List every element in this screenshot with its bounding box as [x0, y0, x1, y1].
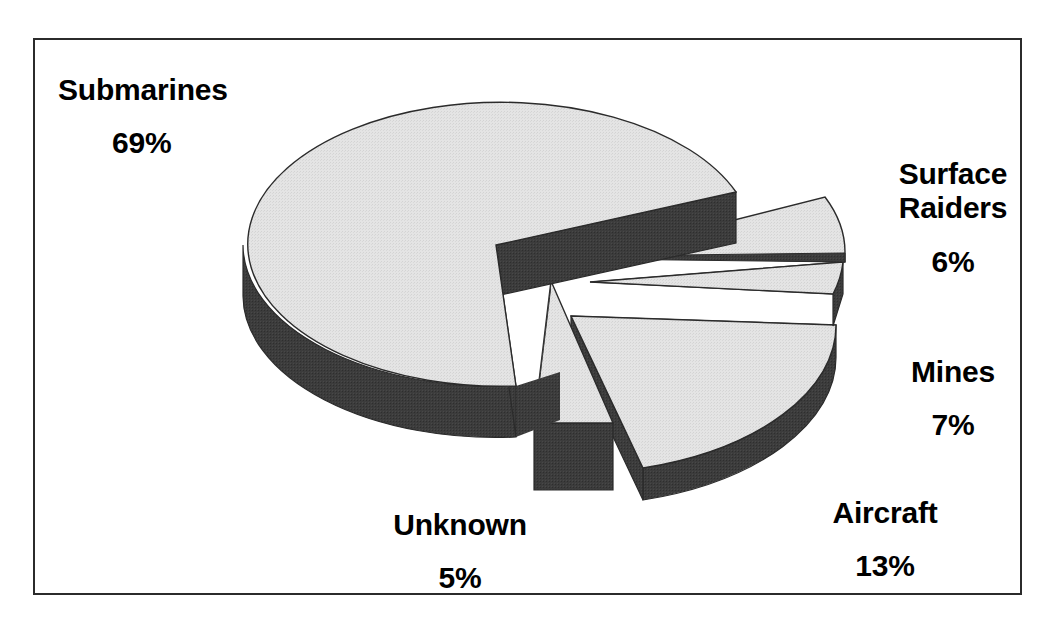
pie-label-unknown-value: 5% — [345, 561, 575, 596]
pie-label-surface-raiders-name: Surface Raiders — [858, 157, 1048, 227]
pie-label-unknown: Unknown 5% — [345, 489, 575, 614]
pie-label-submarines: Submarines 69% — [46, 54, 296, 179]
pie-label-aircraft-name: Aircraft — [780, 496, 990, 531]
pie-slice-mines[interactable] — [590, 262, 843, 326]
pie-label-surface-raiders-value: 6% — [858, 245, 1048, 280]
pie-label-submarines-name: Submarines — [46, 73, 296, 108]
pie-label-aircraft: Aircraft 13% — [780, 477, 990, 602]
pie-label-submarines-value: 69% — [46, 126, 296, 161]
pie-label-unknown-name: Unknown — [345, 508, 575, 543]
pie-label-mines: Mines 7% — [858, 336, 1048, 461]
pie-label-surface-raiders: Surface Raiders 6% — [858, 138, 1048, 298]
pie-label-mines-value: 7% — [858, 408, 1048, 443]
pie-label-aircraft-value: 13% — [780, 549, 990, 584]
pie-label-mines-name: Mines — [858, 355, 1048, 390]
chart-page: Submarines 69% Surface Raiders 6% Mines … — [0, 0, 1062, 637]
